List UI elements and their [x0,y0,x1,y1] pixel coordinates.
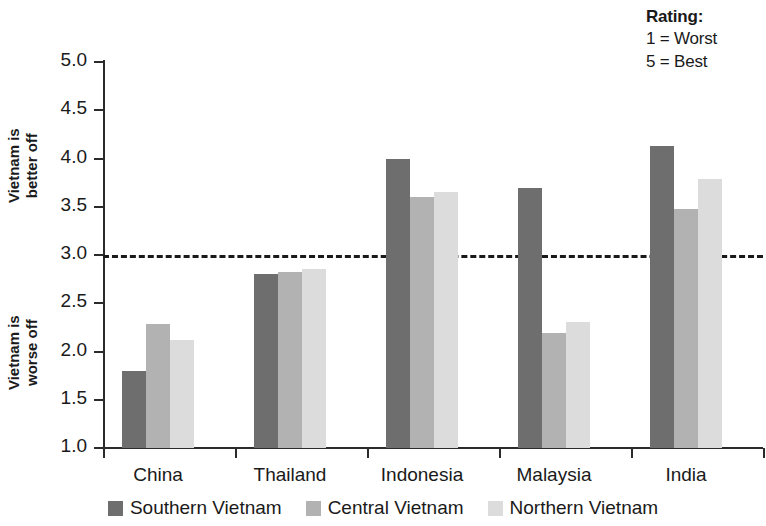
y-axis-tick-label: 4.5 [61,97,87,119]
y-axis-tick-label: 2.0 [61,339,87,361]
y-axis-tick: 3.0 [94,254,103,256]
bar [698,179,722,448]
bar [146,324,170,448]
x-axis-tick [763,448,765,458]
legend-item: Central Vietnam [306,497,464,519]
y-axis-annotation-better-off-line-1: Vietnam is [5,101,23,231]
bar [674,209,698,448]
y-axis-tick: 3.5 [94,206,103,208]
bar [278,272,302,448]
x-axis-category-label: India [665,464,706,486]
x-axis-category-label: China [133,464,183,486]
bar [650,146,674,448]
x-axis-category-label: Malaysia [517,464,592,486]
legend-label: Southern Vietnam [130,497,282,519]
legend-item: Southern Vietnam [108,497,282,519]
bar [566,322,590,448]
y-axis-tick-label: 3.0 [61,242,87,264]
bar-chart: Rating: 1 = Worst 5 = Best Vietnam is be… [0,0,766,526]
x-axis-tick [103,448,105,458]
x-axis-tick [235,448,237,458]
y-axis-tick: 2.0 [94,351,103,353]
y-axis-tick: 5.0 [94,61,103,63]
rating-note-title: Rating: [646,6,717,28]
y-axis-annotation-worse-off-line-1: Vietnam is [5,288,23,418]
y-axis-tick-label: 5.0 [61,49,87,71]
y-axis-tick-label: 2.5 [61,290,87,312]
y-axis-tick: 1.0 [94,447,103,449]
bar [410,197,434,448]
legend: Southern VietnamCentral VietnamNorthern … [0,497,766,519]
y-axis-annotation-better-off-line-2: better off [23,101,41,231]
legend-label: Central Vietnam [328,497,464,519]
x-axis-tick [367,448,369,458]
x-axis-category-label: Thailand [254,464,327,486]
bar [386,159,410,449]
bar [518,188,542,448]
y-axis-tick: 4.5 [94,109,103,111]
y-axis-tick-label: 3.5 [61,194,87,216]
y-axis-tick-label: 1.5 [61,387,87,409]
y-axis-tick: 2.5 [94,302,103,304]
bar [434,192,458,448]
rating-note-line-1: 1 = Worst [646,28,717,50]
x-axis-tick [631,448,633,458]
bar [254,274,278,448]
bar [542,333,566,448]
legend-swatch [108,501,123,516]
y-axis-tick-label: 1.0 [61,435,87,457]
legend-item: Northern Vietnam [488,497,659,519]
plot-area: 1.01.52.02.53.03.54.04.55.0ChinaThailand… [103,62,763,448]
bar [302,269,326,448]
legend-swatch [488,501,503,516]
legend-swatch [306,501,321,516]
y-axis-annotation-worse-off: Vietnam is worse off [5,288,40,418]
y-axis-tick: 1.5 [94,399,103,401]
y-axis-annotation-better-off: Vietnam is better off [5,101,40,231]
y-axis-tick: 4.0 [94,158,103,160]
bar [122,371,146,448]
x-axis-tick [499,448,501,458]
y-axis-annotation-worse-off-line-2: worse off [23,288,41,418]
y-axis-tick-label: 4.0 [61,146,87,168]
bar [170,340,194,448]
legend-label: Northern Vietnam [510,497,659,519]
x-axis-category-label: Indonesia [381,464,463,486]
